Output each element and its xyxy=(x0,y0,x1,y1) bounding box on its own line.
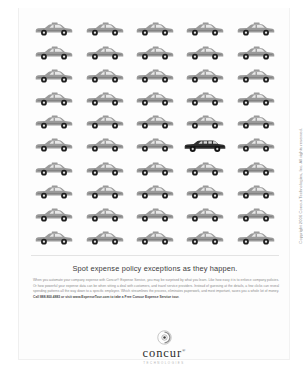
car-icon-exception xyxy=(182,135,228,157)
car-icon xyxy=(233,135,279,157)
body-copy: When you automate your company expense w… xyxy=(33,278,279,300)
car-icon xyxy=(182,111,228,133)
car-icon xyxy=(31,111,77,133)
car-icon xyxy=(182,158,228,180)
copyright-notice: Copyright 2006 Concur Technologies, Inc.… xyxy=(293,0,307,371)
car-icon xyxy=(182,42,228,64)
car-icon xyxy=(31,42,77,64)
car-icon xyxy=(233,88,279,110)
logo-wordmark-text: concur xyxy=(143,346,182,360)
ad-sheet: Spot expense policy exceptions as they h… xyxy=(18,8,290,360)
car-icon xyxy=(233,65,279,87)
logo-tagline: Technologies xyxy=(143,361,185,365)
body-paragraph: When you automate your company expense w… xyxy=(33,278,279,300)
car-icon xyxy=(182,65,228,87)
car-icon xyxy=(132,204,178,226)
logo-wordmark: concur® xyxy=(143,347,186,360)
car-icon xyxy=(132,158,178,180)
car-icon xyxy=(182,88,228,110)
car-icon xyxy=(233,19,279,41)
advertisement-page: Spot expense policy exceptions as they h… xyxy=(0,0,308,371)
car-icon xyxy=(132,42,178,64)
car-icon xyxy=(233,42,279,64)
car-icon xyxy=(233,181,279,203)
copyright-text: Copyright 2006 Concur Technologies, Inc.… xyxy=(298,128,303,244)
car-icon xyxy=(82,135,128,157)
car-icon xyxy=(233,158,279,180)
logo-registered-mark: ® xyxy=(182,348,185,353)
car-icon xyxy=(31,135,77,157)
car-icon xyxy=(233,227,279,249)
car-icon xyxy=(31,227,77,249)
car-icon xyxy=(82,158,128,180)
car-icon xyxy=(233,204,279,226)
car-icon xyxy=(132,227,178,249)
car-icon xyxy=(82,65,128,87)
car-icon xyxy=(31,204,77,226)
car-icon xyxy=(82,181,128,203)
section-divider xyxy=(31,255,279,256)
car-grid xyxy=(29,18,281,250)
car-icon xyxy=(182,19,228,41)
car-icon xyxy=(182,181,228,203)
concur-circle-mark-icon xyxy=(157,330,172,345)
car-icon xyxy=(31,65,77,87)
car-icon xyxy=(82,42,128,64)
concur-logo: concur® Technologies xyxy=(19,330,308,365)
car-icon xyxy=(132,65,178,87)
headline: Spot expense policy exceptions as they h… xyxy=(31,264,279,273)
car-icon xyxy=(182,227,228,249)
car-icon xyxy=(182,204,228,226)
car-icon xyxy=(82,88,128,110)
car-icon xyxy=(233,111,279,133)
car-icon xyxy=(31,181,77,203)
cta-text: Call 888.800.4883 or visit www.ExpenseTo… xyxy=(33,295,179,299)
body-paragraph-text: When you automate your company expense w… xyxy=(33,278,279,293)
car-icon xyxy=(82,111,128,133)
car-icon xyxy=(82,19,128,41)
car-icon xyxy=(132,111,178,133)
car-icon xyxy=(82,227,128,249)
car-icon xyxy=(31,19,77,41)
car-icon xyxy=(132,19,178,41)
car-icon xyxy=(132,135,178,157)
car-icon xyxy=(82,204,128,226)
car-icon xyxy=(132,181,178,203)
car-icon xyxy=(132,88,178,110)
car-icon xyxy=(31,158,77,180)
car-icon xyxy=(31,88,77,110)
